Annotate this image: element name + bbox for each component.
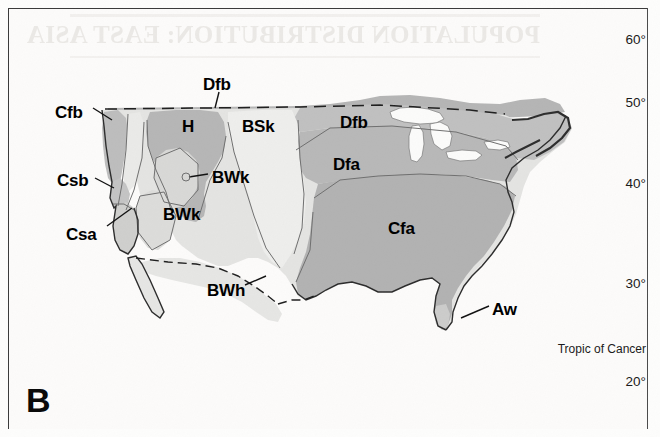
figure-panel: POPULATION DISTRIBUTION: EAST ASIA: [0, 0, 660, 437]
latitude-label-50: 50°: [600, 95, 646, 110]
zone-label-csb: Csb: [57, 171, 89, 191]
lake-ontario: [484, 140, 510, 150]
latitude-label-40: 40°: [600, 176, 646, 191]
zone-label-csa: Csa: [66, 225, 97, 245]
leader-line-aw: [461, 306, 489, 318]
zone-label-bwh: BWh: [207, 281, 245, 301]
latitude-label-30: 30°: [600, 276, 646, 291]
zone-label-dfb-northeast: Dfb: [340, 113, 368, 133]
latitude-label-60: 60°: [600, 32, 646, 47]
zone-label-dfb-top: Dfb: [203, 75, 231, 95]
zone-label-cfb: Cfb: [55, 103, 83, 123]
latitude-label-tropic-of-cancer: Tropic of Cancer: [524, 342, 646, 356]
zone-label-aw: Aw: [492, 300, 517, 320]
lake-michigan: [409, 125, 424, 162]
climate-map-usa: [0, 0, 660, 437]
zone-label-bwk-southwest: BWk: [163, 205, 200, 225]
zone-label-h: H: [182, 117, 194, 137]
latitude-label-20: 20°: [600, 374, 646, 389]
zone-area-cfa: [296, 174, 515, 330]
zone-label-cfa: Cfa: [388, 219, 415, 239]
zone-label-dfa: Dfa: [333, 155, 360, 175]
leader-line-bwh: [245, 276, 266, 285]
zone-label-bsk: BSk: [242, 117, 274, 137]
zone-label-bwk-basin: BWk: [212, 168, 249, 188]
panel-letter-b: B: [26, 383, 51, 417]
